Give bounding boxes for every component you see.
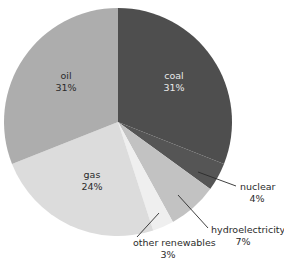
pie-chart-svg: coal 31% oil 31% gas 24% nuclear 4% hydr… [0,0,284,272]
coal-label-value: 31% [163,82,184,93]
pie-chart-figure: coal 31% oil 31% gas 24% nuclear 4% hydr… [0,0,284,272]
oil-label-name: oil [60,70,71,81]
nuclear-label-name: nuclear [240,181,276,192]
pie-slices [4,8,232,236]
gas-label-name: gas [84,169,101,180]
other-renewables-label-name: other renewables [133,237,216,248]
oil-label-value: 31% [55,82,76,93]
other-renewables-label-value: 3% [160,249,175,260]
nuclear-label-value: 4% [249,193,264,204]
hydroelectricity-label-name: hydroelectricity [211,224,284,235]
coal-label-name: coal [164,70,184,81]
gas-label-value: 24% [81,181,102,192]
hydroelectricity-label-value: 7% [235,236,250,247]
